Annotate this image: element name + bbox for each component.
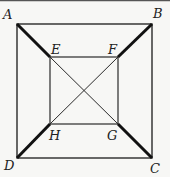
label-A: A — [2, 7, 12, 22]
segment-CG — [118, 124, 152, 158]
segment-AE — [17, 24, 50, 57]
label-B: B — [152, 6, 163, 21]
label-C: C — [150, 161, 160, 176]
segment-BF — [118, 24, 152, 57]
label-G: G — [107, 128, 117, 143]
label-H: H — [48, 128, 61, 143]
label-F: F — [107, 42, 118, 57]
square-diagram: A B C D E F G H — [0, 0, 170, 177]
segment-DH — [17, 124, 50, 158]
label-E: E — [50, 42, 61, 57]
label-D: D — [3, 158, 15, 173]
